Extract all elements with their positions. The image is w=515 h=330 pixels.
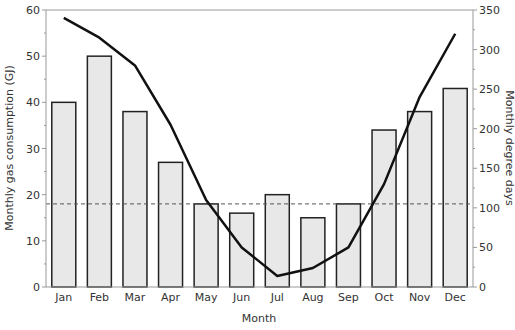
y-tick-label: 60 — [26, 4, 40, 17]
y-axis-left-label: Monthly gas consumption (GJ) — [3, 65, 16, 231]
bar-oct — [372, 130, 396, 287]
bar-series — [52, 56, 467, 287]
x-tick-label: Dec — [445, 291, 466, 304]
x-tick-label: Aug — [302, 291, 323, 304]
x-tick-label: Sep — [338, 291, 359, 304]
bar-may — [194, 204, 218, 287]
x-tick-label: Jun — [232, 291, 250, 304]
bar-apr — [159, 162, 183, 287]
x-tick-label: Apr — [161, 291, 181, 304]
y2-tick-label: 350 — [479, 4, 500, 17]
x-tick-label: Mar — [125, 291, 146, 304]
y-tick-label: 50 — [26, 50, 40, 63]
bar-nov — [408, 112, 432, 287]
bar-dec — [443, 88, 467, 287]
y-tick-label: 40 — [26, 96, 40, 109]
y2-tick-label: 300 — [479, 44, 500, 57]
y2-tick-label: 200 — [479, 123, 500, 136]
y-tick-label: 30 — [26, 143, 40, 156]
y-tick-label: 20 — [26, 189, 40, 202]
x-tick-label: May — [195, 291, 218, 304]
bar-jan — [52, 102, 76, 287]
y-tick-label: 0 — [33, 281, 40, 294]
bar-aug — [301, 218, 325, 287]
y2-tick-label: 0 — [479, 281, 486, 294]
x-tick-label: Oct — [375, 291, 395, 304]
x-tick-label: Feb — [90, 291, 109, 304]
x-tick-label: Nov — [409, 291, 431, 304]
x-axis-label: Month — [242, 312, 277, 325]
y-tick-label: 10 — [26, 235, 40, 248]
bar-feb — [87, 56, 111, 287]
y2-tick-label: 50 — [479, 241, 493, 254]
y-axis-right-label: Monthly degree days — [503, 90, 515, 206]
y2-tick-label: 150 — [479, 162, 500, 175]
y2-tick-label: 250 — [479, 83, 500, 96]
bar-jun — [230, 213, 254, 287]
x-tick-label: Jan — [54, 291, 72, 304]
bar-mar — [123, 112, 147, 287]
x-tick-label: Jul — [270, 291, 284, 304]
gas-degree-days-chart: 0102030405060050100150200250300350JanFeb… — [0, 0, 515, 330]
y2-tick-label: 100 — [479, 202, 500, 215]
